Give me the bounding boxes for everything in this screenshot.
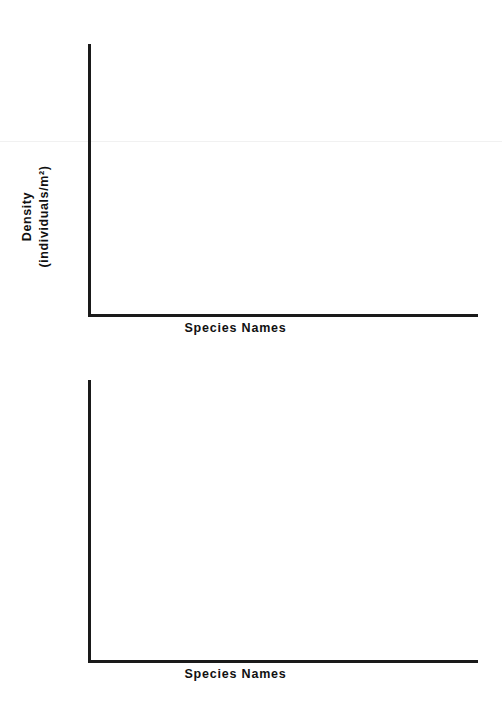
density-y-axis-label-line2: (individuals/m²) <box>35 137 52 297</box>
density-chart: Density (individuals/m²) Species Names <box>0 0 502 360</box>
percent-cover-chart: Percent Cover (%) Species Names <box>0 360 502 709</box>
density-y-axis-label-line1: Density <box>19 137 36 297</box>
density-y-axis-line <box>88 44 91 317</box>
percent-cover-x-axis-line <box>88 660 478 663</box>
density-axes <box>0 0 502 360</box>
percent-cover-y-axis-line <box>88 380 91 663</box>
percent-cover-axes <box>0 360 502 709</box>
density-x-axis-label: Species Names <box>88 321 383 335</box>
density-y-axis-label: Density (individuals/m²) <box>19 137 52 297</box>
percent-cover-x-axis-label: Species Names <box>88 667 383 681</box>
density-x-axis-line <box>88 314 478 317</box>
